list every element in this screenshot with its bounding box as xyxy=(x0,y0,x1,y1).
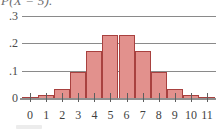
x-axis-tick-label: 0 xyxy=(27,109,33,121)
x-axis-tick xyxy=(143,93,144,102)
x-axis-tick xyxy=(191,93,192,102)
probability-histogram-figure: P(X = 5). 0.1.2.3 01234567891011 xyxy=(0,0,217,129)
x-axis-tick-label: 3 xyxy=(75,109,81,121)
x-axis-tick xyxy=(46,93,47,102)
x-axis-tick-label: 10 xyxy=(185,109,197,121)
x-axis-tick xyxy=(94,93,95,102)
histogram-bar xyxy=(86,51,102,98)
x-axis-tick-label: 7 xyxy=(140,109,146,121)
x-axis-tick-label: 9 xyxy=(172,109,178,121)
x-axis-tick xyxy=(110,93,111,102)
x-axis-tick xyxy=(159,93,160,102)
x-axis-tick-label: 5 xyxy=(107,109,113,121)
x-axis-tick-label: 8 xyxy=(156,109,162,121)
histogram-bar xyxy=(135,51,151,98)
histogram-bar xyxy=(119,35,135,98)
x-axis-tick-label: 11 xyxy=(201,109,213,121)
x-axis-tick xyxy=(62,93,63,102)
plot-area: 0.1.2.3 01234567891011 xyxy=(0,9,217,129)
x-axis-tick xyxy=(207,93,208,102)
x-axis-tick xyxy=(127,93,128,102)
figure-caption-clipped: P(X = 5). xyxy=(0,0,120,9)
x-axis-tick-label: 4 xyxy=(91,109,97,121)
x-axis-tick-label: 2 xyxy=(59,109,65,121)
x-axis-tick-label: 6 xyxy=(124,109,130,121)
figure-caption-text: P(X = 5). xyxy=(1,0,52,9)
x-axis-tick xyxy=(175,93,176,102)
x-axis-tick xyxy=(78,93,79,102)
x-axis-tick xyxy=(30,93,31,102)
x-axis-tick-label: 1 xyxy=(43,109,49,121)
histogram-bar xyxy=(102,35,118,98)
scan-artifact xyxy=(16,125,42,129)
